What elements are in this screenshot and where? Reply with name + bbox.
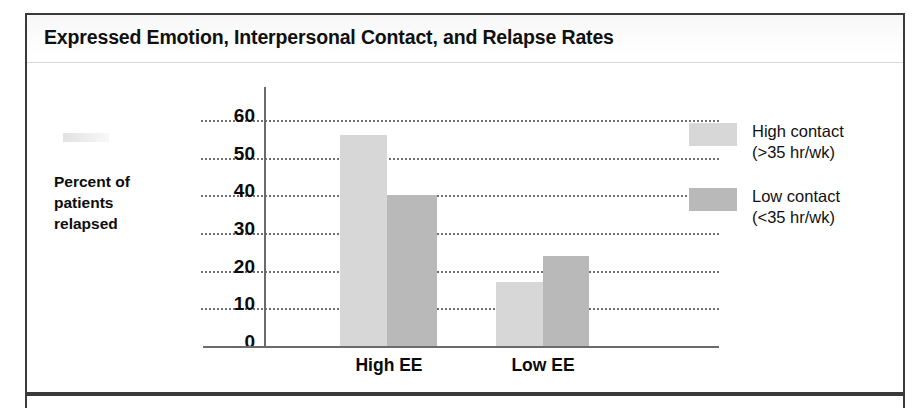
bar-high-ee-high-contact	[340, 135, 387, 346]
bar-low-ee-high-contact	[496, 282, 543, 346]
y-axis-label: Percent of patients relapsed	[54, 171, 174, 234]
y-tick-label-60: 60	[215, 106, 255, 125]
chart-legend: High contact (>35 hr/wk) Low contact (<3…	[689, 121, 844, 251]
figure-frame: Expressed Emotion, Interpersonal Contact…	[25, 13, 905, 394]
gridline-10	[201, 308, 719, 310]
y-tick-label-20: 20	[215, 257, 255, 276]
x-axis-line	[203, 346, 719, 348]
legend-label-high-contact-line-1: High contact	[752, 121, 844, 142]
legend-swatch-low-contact-icon	[689, 188, 737, 211]
y-tick-label-10: 10	[215, 294, 255, 313]
y-tick-label-50: 50	[215, 144, 255, 163]
bar-high-ee-low-contact	[387, 195, 437, 346]
legend-swatch-high-contact-icon	[689, 123, 737, 146]
next-panel-right-edge	[903, 396, 905, 408]
legend-label-high-contact-line-2: (>35 hr/wk)	[752, 142, 844, 163]
y-tick-label-30: 30	[215, 219, 255, 238]
plot-area: Percent of patients relapsed 60 50 40 30…	[27, 15, 907, 396]
y-axis-label-line-2: patients	[54, 192, 174, 213]
y-axis-label-line-1: Percent of	[54, 171, 174, 192]
gridline-40	[201, 195, 719, 197]
next-panel-left-edge	[25, 396, 27, 408]
bar-low-ee-low-contact	[543, 256, 589, 346]
y-tick-label-0: 0	[215, 332, 255, 351]
legend-label-low-contact-line-2: (<35 hr/wk)	[752, 207, 840, 228]
legend-label-high-contact: High contact (>35 hr/wk)	[752, 121, 844, 162]
gridline-50	[201, 158, 719, 160]
gridline-30	[201, 233, 719, 235]
y-axis-line	[264, 87, 266, 346]
legend-item-high-contact: High contact (>35 hr/wk)	[689, 121, 844, 162]
y-tick-label-40: 40	[215, 181, 255, 200]
x-tick-label-low-ee: Low EE	[483, 355, 603, 376]
gridline-60	[201, 120, 719, 122]
legend-label-low-contact: Low contact (<35 hr/wk)	[752, 186, 840, 227]
legend-label-low-contact-line-1: Low contact	[752, 186, 840, 207]
gridline-20	[201, 271, 719, 273]
legend-item-low-contact: Low contact (<35 hr/wk)	[689, 186, 844, 227]
panel-divider	[25, 394, 905, 396]
x-tick-label-high-ee: High EE	[329, 355, 449, 376]
y-axis-label-line-3: relapsed	[54, 213, 174, 234]
